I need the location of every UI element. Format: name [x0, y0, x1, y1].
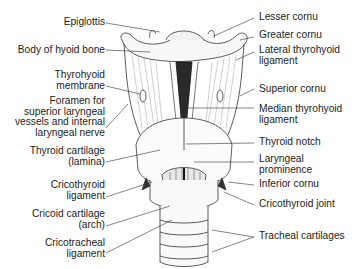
label-cricothyroid-joint: Cricothyroid joint — [259, 199, 335, 210]
label-thyroid-cartilage-lamina: Thyroid cartilage (lamina) — [30, 146, 105, 167]
label-lesser-cornu: Lesser cornu — [259, 12, 318, 23]
label-cricoid-cartilage-arch: Cricoid cartilage (arch) — [32, 209, 105, 230]
label-cricothyroid-ligament: Cricothyroid ligament — [51, 180, 105, 201]
label-laryngeal-prominence: Laryngeal prominence — [259, 154, 312, 175]
label-superior-cornu: Superior cornu — [259, 84, 326, 95]
label-lateral-thyrohyoid-ligament: Lateral thyrohyoid ligament — [259, 45, 340, 66]
label-tracheal-cartilages: Tracheal cartilages — [259, 231, 345, 242]
label-body-of-hyoid-bone: Body of hyoid bone — [18, 45, 105, 56]
label-thyroid-notch: Thyroid notch — [259, 137, 321, 148]
label-median-thyrohyoid-ligament: Median thyrohyoid ligament — [259, 104, 342, 125]
label-greater-cornu: Greater cornu — [259, 30, 322, 41]
label-epiglottis: Epiglottis — [64, 17, 105, 28]
label-foramen: Foramen for superior laryngeal vessels a… — [15, 96, 105, 138]
label-thyrohyoid-membrane: Thyrohyoid membrane — [55, 70, 105, 91]
label-inferior-cornu: Inferior cornu — [259, 179, 319, 190]
label-cricotracheal-ligament: Cricotracheal ligament — [45, 238, 105, 259]
larynx-diagram: Epiglottis Body of hyoid bone Thyrohyoid… — [0, 0, 355, 269]
